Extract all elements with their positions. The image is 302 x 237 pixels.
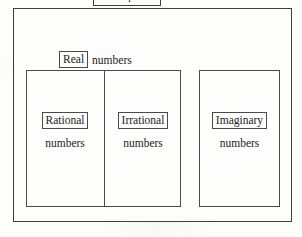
imaginary-numbers-word: numbers	[220, 136, 260, 150]
rational-numbers-word: numbers	[45, 136, 85, 150]
imaginary-numbers-term: Imaginary	[212, 112, 267, 129]
complex-numbers-label-box: Complex	[93, 0, 161, 6]
complex-numbers-label: Complex	[94, 0, 160, 6]
imaginary-numbers-group: Imaginary numbers	[199, 112, 280, 150]
rational-numbers-term: Rational	[42, 112, 89, 129]
real-numbers-term: Real	[59, 51, 88, 68]
irrational-numbers-term: Irrational	[118, 112, 169, 129]
real-numbers-caption: Real numbers	[59, 51, 132, 68]
rational-numbers-group: Rational numbers	[26, 112, 104, 150]
real-numbers-word: numbers	[92, 53, 132, 67]
number-sets-diagram: Complex Real numbers Rational numbers Ir…	[0, 0, 302, 237]
irrational-numbers-word: numbers	[123, 136, 163, 150]
irrational-numbers-group: Irrational numbers	[105, 112, 181, 150]
